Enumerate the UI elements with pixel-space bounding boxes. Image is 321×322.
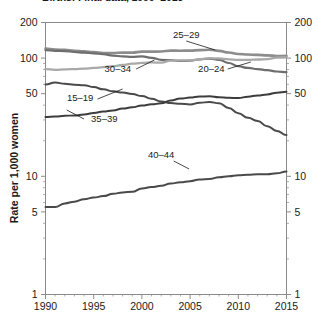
series-lines [46, 49, 287, 207]
chart-plot-area: 25–2920–2430–3415–1935–3940–44 200200100… [0, 0, 321, 322]
svg-text:50: 50 [295, 87, 307, 99]
series-label-30-34: 30–34 [105, 63, 131, 74]
svg-text:1: 1 [295, 288, 301, 300]
svg-text:2005: 2005 [178, 300, 202, 312]
series-label-15-19: 15–19 [67, 92, 93, 103]
svg-text:2010: 2010 [227, 300, 251, 312]
y-axis-left-ticks [41, 23, 46, 295]
svg-text:5: 5 [32, 206, 38, 218]
svg-text:200: 200 [295, 16, 313, 28]
series-line-15-19 [46, 83, 287, 136]
svg-text:100: 100 [20, 52, 38, 64]
svg-text:10: 10 [295, 170, 307, 182]
series-label-25-29: 25–29 [173, 29, 199, 40]
series-label-40-44: 40–44 [148, 149, 174, 160]
leader-line-40-44 [174, 161, 189, 169]
birth-rate-chart: Births: Final data, 1990–2015 25–2920–24… [0, 0, 321, 322]
leader-line-30-34 [136, 60, 154, 69]
svg-text:10: 10 [26, 170, 38, 182]
series-line-40-44 [46, 171, 287, 207]
svg-text:1990: 1990 [34, 300, 58, 312]
series-inline-labels: 25–2920–2430–3415–1935–3940–44 [67, 29, 251, 169]
svg-text:5: 5 [295, 206, 301, 218]
x-axis-ticks [46, 295, 287, 300]
svg-text:200: 200 [20, 16, 38, 28]
y-axis-right-ticks [287, 23, 292, 295]
leader-line-25-29 [186, 41, 215, 50]
series-label-20-24: 20–24 [198, 63, 224, 74]
y-axis-title: Rate per 1,000 women [8, 113, 20, 223]
series-label-35-39: 35–39 [91, 113, 117, 124]
svg-text:100: 100 [295, 52, 313, 64]
svg-text:2015: 2015 [275, 300, 299, 312]
svg-text:2000: 2000 [130, 300, 154, 312]
svg-text:50: 50 [26, 87, 38, 99]
svg-text:1995: 1995 [82, 300, 106, 312]
svg-text:1: 1 [32, 288, 38, 300]
